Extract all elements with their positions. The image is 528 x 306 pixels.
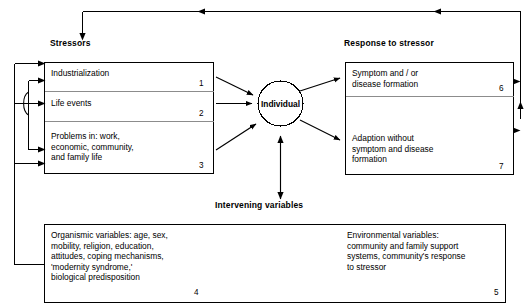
resp6-arrowhead [513,78,521,84]
response-box-6-text: Symptom and / or disease formation [352,68,418,89]
feedback-arrowhead-mid [198,8,206,14]
resp7-arrowhead [513,127,521,133]
intervening-box-5-number: 5 [494,288,499,297]
heading-response-to-stressor: Response to stressor [344,38,434,48]
heading-intervening-variables: Intervening variables [215,200,303,210]
response-box-7-number: 7 [499,162,504,171]
feedback-arrowhead-right [434,8,442,14]
stressor-box-3-number: 3 [199,161,204,170]
arrow-box3-to-individual [216,124,256,150]
intervening-arrowhead-up [277,136,283,144]
stressor-box-1-number: 1 [199,79,204,88]
intervening-box-4-number: 4 [194,288,199,297]
diagram-canvas: Stressors Response to stressor Interveni… [0,0,528,306]
heading-stressors: Stressors [50,38,91,48]
intervening-box-4-text: Organismic variables: age, sex, mobility… [51,230,168,283]
stressor-box-3-text: Problems in: work, economic, community, … [51,131,134,163]
arrow-individual-to-box6 [300,78,340,91]
arrow-individual-to-box7 [300,120,340,140]
stressor-box-1-text: Industrialization [51,68,109,79]
stressor-box-2-text: Life events [51,98,92,109]
stressor-box-2-number: 2 [199,109,204,118]
individual-node-label: Individual [256,99,305,109]
response-box-7-text: Adaption without symptom and disease for… [352,133,433,165]
response-box-6-number: 6 [499,84,504,93]
intervening-arrowhead-down [277,192,283,200]
intervening-box-5-text: Environmental variables: community and f… [347,230,465,272]
arrow-box1-to-individual [216,77,253,95]
right-rail-up-arrowhead [517,102,523,110]
